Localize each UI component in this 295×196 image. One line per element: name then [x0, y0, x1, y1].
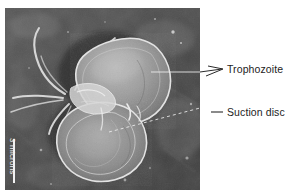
leader-line-trophozoite — [200, 69, 222, 72]
figure-root: Trophozoite Suction disc 3 microns — [0, 0, 295, 196]
callout-label-suction-disc: Suction disc — [227, 106, 285, 118]
callout-trophozoite — [200, 66, 223, 76]
arrowhead-trophozoite-icon — [206, 66, 223, 76]
scale-bar: 3 microns — [11, 138, 37, 184]
callout-label-trophozoite: Trophozoite — [227, 63, 283, 75]
scale-bar-label: 3 microns — [6, 138, 17, 182]
